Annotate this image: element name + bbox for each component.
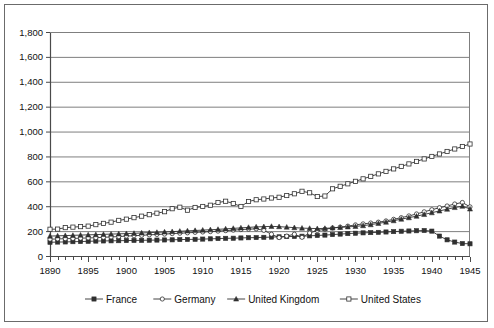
legend-label: France [106,294,138,305]
x-axis-tick-label: 1945 [459,265,480,276]
x-axis-tick-label: 1900 [116,265,137,276]
legend-label: United States [361,294,421,305]
x-axis-tick-label: 1910 [192,265,213,276]
y-axis-tick-label: 400 [27,201,43,212]
x-axis-tick-label: 1895 [78,265,99,276]
y-axis-tick-label: 1,600 [19,51,43,62]
x-axis-tick-label: 1890 [39,265,60,276]
y-axis-tick-label: 0 [38,251,43,262]
x-axis-tick-label: 1930 [345,265,366,276]
y-axis-tick-label: 1,400 [19,76,43,87]
y-axis-tick-label: 200 [27,226,43,237]
x-axis-tick-label: 1915 [230,265,251,276]
legend-marker-icon [347,297,351,301]
legend-label: United Kingdom [248,294,319,305]
figure: 02004006008001,0001,2001,4001,6001,80018… [0,0,494,328]
legend-item-united-kingdom[interactable]: United Kingdom [227,294,319,305]
y-axis-tick-label: 1,800 [19,27,43,38]
y-axis-tick-label: 800 [27,151,43,162]
x-axis-tick-label: 1905 [154,265,175,276]
y-axis-tick-label: 600 [27,176,43,187]
x-axis-tick-label: 1925 [307,265,328,276]
legend-label: Germany [174,294,215,305]
y-axis-tick-label: 1,000 [19,126,43,137]
legend-item-united-states[interactable]: United States [340,294,421,305]
x-axis-tick-label: 1940 [421,265,442,276]
legend-marker-icon [160,297,164,301]
legend-item-france[interactable]: France [85,294,138,305]
line-chart: 02004006008001,0001,2001,4001,6001,80018… [0,0,494,328]
x-axis-tick-label: 1920 [269,265,290,276]
legend-marker-icon [92,297,96,301]
legend-item-germany[interactable]: Germany [153,294,215,305]
x-axis-tick-label: 1935 [383,265,404,276]
y-axis-tick-label: 1,200 [19,101,43,112]
